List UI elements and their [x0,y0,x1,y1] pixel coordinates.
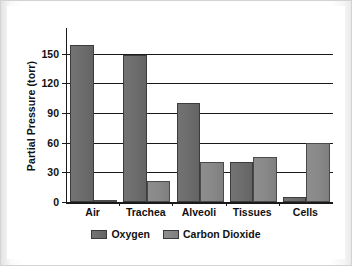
bar-cells-carbon-dioxide [306,143,330,202]
bar-tissues-carbon-dioxide [253,157,277,202]
x-tick-mark-4 [279,202,280,206]
y-tick-label-60: 60 [25,137,59,149]
x-tick-mark-2 [172,202,173,206]
gridline-150 [67,54,333,55]
chart-screenshot: Partial Pressure (torr) 0306090120150 Ai… [0,0,352,266]
bar-cells-oxygen [283,197,307,202]
y-tick-label-150: 150 [25,48,59,60]
legend-label-carbon-dioxide: Carbon Dioxide [183,228,261,240]
y-tick-label-90: 90 [25,107,59,119]
legend-label-oxygen: Oxygen [111,228,150,240]
gridline-60 [67,143,333,144]
gridline-90 [67,113,333,114]
x-tick-mark-1 [119,202,120,206]
legend-item-carbon-dioxide: Carbon Dioxide [163,228,261,240]
y-tick-mark-0 [62,202,66,203]
y-tick-mark-30 [62,172,66,173]
legend-item-oxygen: Oxygen [91,228,150,240]
y-tick-label-120: 120 [25,77,59,89]
bar-air-carbon-dioxide [94,200,118,202]
y-tick-label-0: 0 [25,196,59,208]
legend-swatch-carbon-dioxide-icon [163,230,179,239]
x-tick-label-alveoli: Alveoli [172,206,225,218]
x-tick-label-tissues: Tissues [226,206,279,218]
y-tick-label-30: 30 [25,166,59,178]
y-tick-mark-120 [62,83,66,84]
x-tick-mark-3 [226,202,227,206]
legend-swatch-oxygen-icon [91,230,107,239]
y-tick-mark-60 [62,143,66,144]
y-tick-mark-150 [62,54,66,55]
chart-legend: Oxygen Carbon Dioxide [0,228,352,240]
x-tick-label-trachea: Trachea [119,206,172,218]
x-tick-label-air: Air [66,206,119,218]
gridline-120 [67,83,333,84]
y-tick-mark-90 [62,113,66,114]
bar-alveoli-carbon-dioxide [200,162,224,202]
x-tick-label-cells: Cells [279,206,332,218]
bar-alveoli-oxygen [177,103,201,202]
bar-air-oxygen [70,45,94,202]
bar-chart: Partial Pressure (torr) 0306090120150 Ai… [0,0,352,266]
bar-tissues-oxygen [230,162,254,202]
bar-trachea-oxygen [123,55,147,202]
bar-trachea-carbon-dioxide [147,181,171,202]
plot-area [66,28,333,204]
